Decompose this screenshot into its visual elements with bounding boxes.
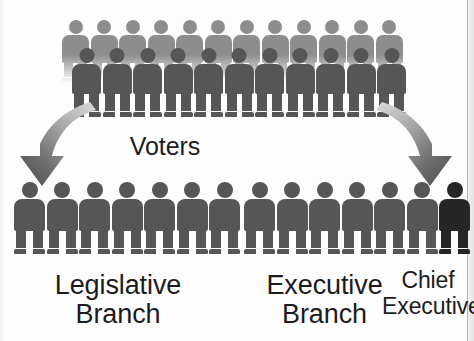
figure-head — [152, 182, 168, 198]
figure-leg — [163, 229, 173, 248]
figure-leg — [105, 93, 115, 111]
page-left-shade — [0, 0, 5, 341]
figure-leg — [166, 93, 176, 111]
figure-leg — [441, 229, 451, 248]
legislator-figure — [112, 182, 143, 255]
figure-shoe — [303, 112, 315, 117]
figure-shoe — [347, 112, 359, 117]
legislator-figure — [177, 182, 208, 255]
figure-shoe — [228, 249, 240, 254]
figure-body — [14, 199, 45, 231]
figure-body — [72, 64, 101, 94]
figure-shoe — [361, 249, 373, 254]
figure-leg — [16, 229, 26, 248]
figure-leg — [211, 93, 221, 111]
voter-figure — [103, 48, 132, 117]
figure-leg — [242, 93, 252, 111]
figure-head — [293, 48, 308, 63]
figure-head — [325, 20, 339, 34]
figure-leg — [361, 229, 371, 248]
figure-leg — [303, 93, 313, 111]
chief-executive-figure — [439, 182, 470, 255]
figure-body — [255, 64, 284, 94]
figure-head — [240, 20, 254, 34]
figure-body — [209, 199, 240, 231]
civics-diagram: Voters — [0, 0, 474, 341]
figure-leg — [349, 93, 359, 111]
figure-head — [54, 182, 70, 198]
figure-shoe — [426, 249, 438, 254]
figure-head — [252, 182, 268, 198]
figure-body — [112, 199, 143, 231]
figure-leg — [179, 229, 189, 248]
figure-shoe — [296, 249, 308, 254]
figure-head — [140, 48, 155, 63]
figure-head — [232, 48, 247, 63]
figure-leg — [196, 93, 206, 111]
legislative-branch-label: Legislative Branch — [8, 271, 228, 329]
figure-body — [47, 199, 78, 231]
voter-figure — [225, 48, 254, 117]
figure-head — [87, 182, 103, 198]
figure-shoe — [150, 112, 162, 117]
figure-leg — [146, 229, 156, 248]
figure-head — [79, 48, 94, 63]
figure-shoe — [439, 249, 451, 254]
figure-leg — [376, 229, 386, 248]
figure-body — [225, 64, 254, 94]
figure-leg — [458, 229, 468, 248]
figure-body — [342, 199, 373, 231]
figure-leg — [279, 229, 289, 248]
voter-figure — [133, 48, 162, 117]
figure-head — [184, 182, 200, 198]
figure-body — [439, 199, 470, 231]
figure-head — [211, 20, 225, 34]
figure-body — [164, 64, 193, 94]
figure-shoe — [196, 249, 208, 254]
figure-leg — [333, 93, 343, 111]
figure-head — [201, 48, 216, 63]
executive-figure — [277, 182, 308, 255]
figure-shoe — [66, 249, 78, 254]
figure-shoe — [194, 112, 206, 117]
executive-branch-group — [244, 182, 470, 255]
voter-figure — [316, 48, 345, 117]
figure-shoe — [163, 249, 175, 254]
figure-leg — [98, 229, 108, 248]
figure-head — [382, 182, 398, 198]
figure-body — [194, 64, 223, 94]
executive-figure — [309, 182, 340, 255]
legislator-figure — [79, 182, 110, 255]
executive-figure — [244, 182, 275, 255]
figure-head — [171, 48, 186, 63]
figure-head — [22, 182, 38, 198]
figure-shoe — [133, 112, 145, 117]
figure-leg — [246, 229, 256, 248]
figure-leg — [228, 229, 238, 248]
voter-figure — [255, 48, 284, 117]
figure-shoe — [181, 112, 193, 117]
figure-leg — [81, 229, 91, 248]
figure-shoe — [47, 249, 59, 254]
figure-shoe — [14, 249, 26, 254]
figure-head — [126, 20, 140, 34]
voter-figure — [347, 48, 376, 117]
figure-leg — [409, 229, 419, 248]
figure-head — [349, 182, 365, 198]
chief-executive-label: Chief Executive — [382, 268, 474, 320]
voter-figure — [164, 48, 193, 117]
figure-head — [447, 182, 463, 198]
figure-head — [268, 20, 282, 34]
legislative-branch-group — [14, 182, 240, 255]
figure-body — [309, 199, 340, 231]
figure-leg — [272, 93, 282, 111]
figure-body — [244, 199, 275, 231]
figure-shoe — [263, 249, 275, 254]
figure-leg — [181, 93, 191, 111]
legislator-figure — [47, 182, 78, 255]
arrow-to-legislative — [12, 98, 98, 192]
voters-front-row — [72, 48, 406, 117]
executive-figure — [407, 182, 438, 255]
figure-head — [183, 20, 197, 34]
figure-body — [407, 199, 438, 231]
